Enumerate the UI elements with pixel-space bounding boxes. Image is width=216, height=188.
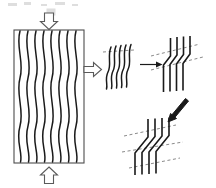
stage1-to-stage2-arrow	[140, 62, 163, 68]
specimen-block	[14, 30, 84, 163]
stage3-fibers	[135, 118, 169, 176]
diagram-canvas	[0, 0, 216, 188]
stage1-fibers	[106, 45, 131, 90]
kink-band-diagram	[0, 0, 216, 188]
specimen-wavy-fibers	[19, 31, 78, 162]
bottom-compression-arrow	[41, 167, 58, 184]
stage2-to-stage3-arrow	[168, 99, 189, 123]
magnify-callout-arrow	[84, 63, 102, 77]
wavy-fibers-cluster	[103, 45, 134, 90]
scan-artifacts	[8, 2, 78, 15]
kink-band-broadened-cluster	[122, 118, 183, 176]
stage2-fibers	[164, 36, 191, 92]
